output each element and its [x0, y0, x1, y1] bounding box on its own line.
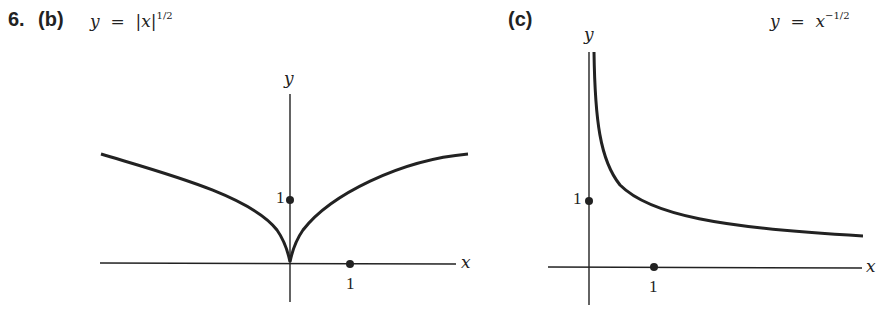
graph-b-y-tick: 1: [276, 188, 285, 208]
graph-c-y-tick: 1: [573, 189, 582, 209]
graph-b-x-axis: [100, 263, 456, 264]
graph-b-x-label: x: [461, 252, 471, 272]
graph-c-curve: [594, 52, 863, 236]
graph-c-x-label: x: [866, 256, 876, 276]
graph-c-point-y1: [585, 197, 593, 205]
graph-c-x-axis: [548, 267, 862, 268]
graph-b-curve: [101, 154, 468, 262]
graph-c-point-x1: [650, 263, 658, 271]
graph-c-y-label: y: [584, 24, 594, 44]
graph-b-x-tick: 1: [346, 274, 355, 294]
graph-c-x-tick: 1: [649, 277, 658, 297]
graph-c: [548, 52, 863, 305]
graphs-canvas: [0, 0, 880, 317]
graph-b-point-y1: [286, 196, 294, 204]
graph-b-point-x1: [346, 260, 354, 268]
graph-b-y-label: y: [284, 68, 294, 88]
